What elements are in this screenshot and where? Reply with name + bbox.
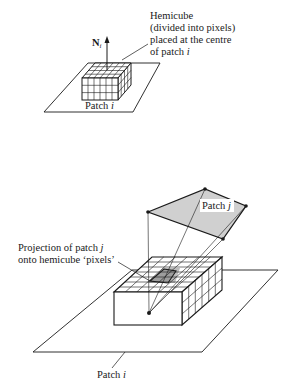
patch-i-label-small: Patch i <box>85 100 114 111</box>
svg-text:Hemicube: Hemicube <box>150 10 193 21</box>
svg-text:of patch i: of patch i <box>150 46 190 57</box>
patch-j-label: Patch j <box>202 200 231 211</box>
patch-i-leader-line <box>112 352 125 368</box>
hemicube-diagram: Ni Hemicube (divided into pixels) placed… <box>0 0 292 390</box>
bottom-figure <box>33 187 278 368</box>
hemicube-centre-point <box>147 311 151 315</box>
svg-text:onto hemicube ‘pixels’: onto hemicube ‘pixels’ <box>18 254 115 265</box>
hemicube-label: Hemicube (divided into pixels) placed at… <box>150 10 236 57</box>
patch-i-label-large: Patch i <box>97 369 126 380</box>
normal-label: Ni <box>92 37 102 50</box>
projection-label: Projection of patch j onto hemicube ‘pix… <box>18 242 115 265</box>
svg-text:placed at the centre: placed at the centre <box>150 34 232 45</box>
large-hemicube <box>114 257 222 325</box>
patch-j <box>148 189 246 239</box>
svg-text:Projection of patch j: Projection of patch j <box>18 242 104 253</box>
svg-text:(divided into pixels): (divided into pixels) <box>150 22 236 34</box>
hemicube-leader-line <box>122 44 148 60</box>
